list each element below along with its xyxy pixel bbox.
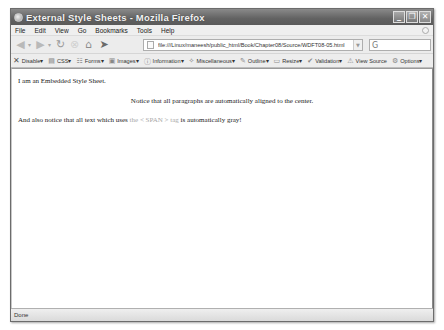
page-content: I am an Embedded Style Sheet. Notice tha… <box>11 68 433 308</box>
devbar-outline[interactable]: ✎ Outline▾ <box>240 57 269 65</box>
window-title: External Style Sheets - Mozilla Firefox <box>26 12 205 23</box>
title-bar[interactable]: External Style Sheets - Mozilla Firefox … <box>11 9 433 25</box>
outline-icon: ✎ <box>240 57 246 65</box>
information-icon: ⓘ <box>144 56 151 66</box>
view-source-icon: ⚠ <box>347 57 353 65</box>
devbar-validation-label: Validation▾ <box>315 58 342 64</box>
navigation-toolbar: ◀ ▾ ▶ ▾ ↻ ⊗ ⌂ ➤ file:///Linux/maneesh/pu… <box>11 36 433 54</box>
resize-icon: ▭ <box>274 57 281 65</box>
disable-icon: ✕ <box>13 56 20 65</box>
paragraph-span-note: And also notice that all text which uses… <box>18 116 242 124</box>
paragraph-span-before: And also notice that all text which uses <box>18 116 130 124</box>
devbar-view-source[interactable]: ⚠ View Source <box>347 57 387 65</box>
window-controls: _ ❐ ✕ <box>393 11 431 23</box>
gray-span-text: the < SPAN > tag <box>130 116 179 124</box>
devbar-images[interactable]: ▣ Images▾ <box>109 57 139 65</box>
menu-file[interactable]: File <box>15 27 25 34</box>
back-dropdown-icon[interactable]: ▾ <box>28 41 31 48</box>
devbar-view-source-label: View Source <box>356 58 387 64</box>
menu-view[interactable]: View <box>55 27 69 34</box>
devbar-options[interactable]: ⚙ Options▾ <box>392 57 423 65</box>
devbar-resize-label: Resize▾ <box>282 58 302 64</box>
devbar-images-label: Images▾ <box>117 58 138 64</box>
menu-bookmarks[interactable]: Bookmarks <box>95 27 128 34</box>
go-icon[interactable]: ➤ <box>96 38 112 51</box>
browser-window: External Style Sheets - Mozilla Firefox … <box>10 8 434 322</box>
devbar-information-label: Information▾ <box>153 58 184 64</box>
paragraph-span-after: is automatically gray! <box>179 116 242 124</box>
devbar-information[interactable]: ⓘ Information▾ <box>144 56 184 66</box>
forms-icon: ☷ <box>77 57 83 65</box>
devbar-disable-label: Disable▾ <box>22 58 44 64</box>
menu-edit[interactable]: Edit <box>34 27 45 34</box>
url-input[interactable]: file:///Linux/maneesh/public_html/Book/C… <box>158 42 353 48</box>
minimize-button[interactable]: _ <box>393 11 405 23</box>
close-button[interactable]: ✕ <box>419 11 431 23</box>
search-bar[interactable]: G <box>369 39 431 51</box>
firefox-icon <box>14 13 23 22</box>
home-button[interactable]: ⌂ <box>82 38 95 51</box>
miscellaneous-icon: ✧ <box>189 57 195 65</box>
page-icon <box>147 41 154 49</box>
menu-help[interactable]: Help <box>161 27 174 34</box>
address-bar[interactable]: file:///Linux/maneesh/public_html/Book/C… <box>143 39 363 51</box>
devbar-disable[interactable]: ✕ Disable▾ <box>13 56 43 65</box>
url-dropdown-button[interactable]: ▼ <box>353 40 362 50</box>
forward-dropdown-icon[interactable]: ▾ <box>48 41 51 48</box>
paragraph-centered: Notice that all paragraphs are automatic… <box>12 97 432 105</box>
validation-icon: ✔ <box>307 57 313 65</box>
back-button[interactable]: ◀ <box>14 38 27 51</box>
devbar-validation[interactable]: ✔ Validation▾ <box>307 57 342 65</box>
menu-tools[interactable]: Tools <box>137 27 152 34</box>
restore-button[interactable]: ❐ <box>406 11 418 23</box>
reload-button[interactable]: ↻ <box>54 38 67 51</box>
devbar-resize[interactable]: ▭ Resize▾ <box>274 57 303 65</box>
devbar-options-label: Options▾ <box>400 58 422 64</box>
forward-button[interactable]: ▶ <box>34 38 47 51</box>
devbar-forms[interactable]: ☷ Forms▾ <box>77 57 104 65</box>
status-text: Done <box>14 312 28 318</box>
status-bar: Done <box>11 308 433 321</box>
devbar-outline-label: Outline▾ <box>248 58 269 64</box>
paragraph-embedded: I am an Embedded Style Sheet. <box>18 77 106 85</box>
devbar-css-label: CSS▾ <box>57 58 72 64</box>
search-engine-icon[interactable]: G <box>372 41 378 50</box>
devbar-miscellaneous-label: Miscellaneous▾ <box>196 58 234 64</box>
devbar-forms-label: Forms▾ <box>85 58 104 64</box>
options-icon: ⚙ <box>392 57 398 65</box>
devbar-css[interactable]: ▤ CSS▾ <box>48 57 71 65</box>
menu-go[interactable]: Go <box>78 27 87 34</box>
devbar-miscellaneous[interactable]: ✧ Miscellaneous▾ <box>189 57 235 65</box>
images-icon: ▣ <box>109 57 116 65</box>
menu-bar: File Edit View Go Bookmarks Tools Help <box>11 25 433 36</box>
css-icon: ▤ <box>48 57 55 65</box>
web-developer-toolbar: ✕ Disable▾ ▤ CSS▾ ☷ Forms▾ ▣ Images▾ ⓘ I… <box>11 54 433 68</box>
stop-button[interactable]: ⊗ <box>68 38 81 51</box>
throbber-icon <box>422 27 429 34</box>
